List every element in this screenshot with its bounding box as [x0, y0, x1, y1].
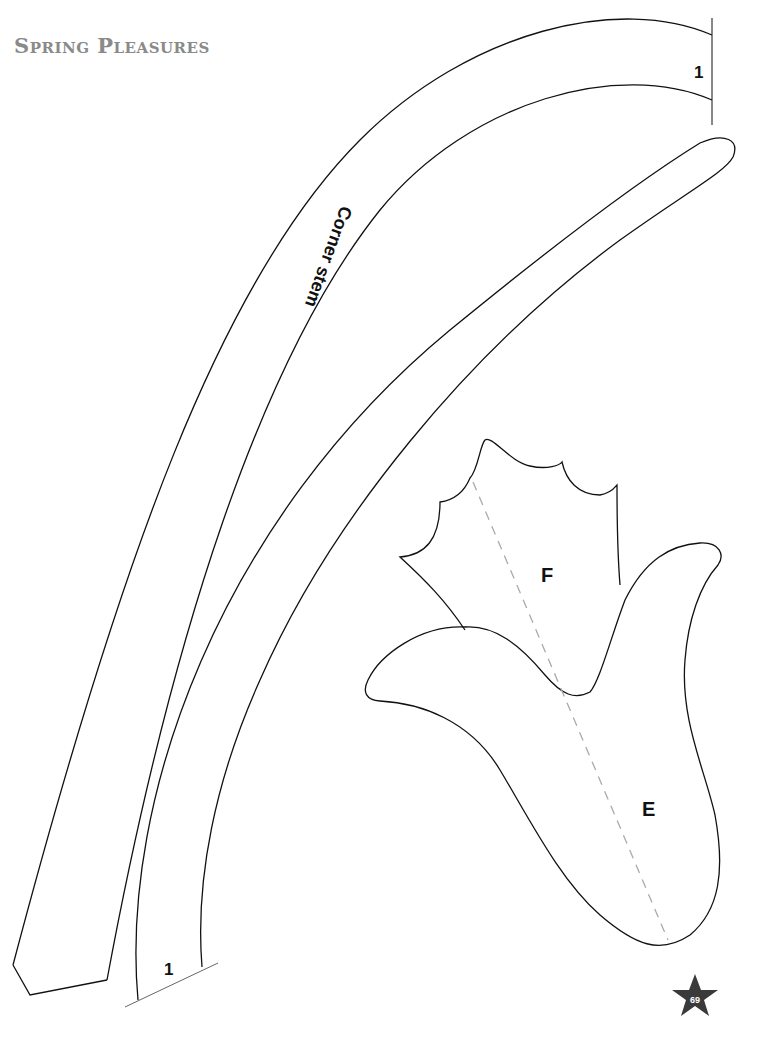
stem-label: Corner stem	[301, 204, 356, 310]
pattern-artwork: Corner stem 1 1 F E 69	[0, 0, 761, 1041]
corner-stem-piece	[13, 18, 712, 995]
pattern-page: Spring Pleasures Corner stem 1 1 F	[0, 0, 761, 1041]
top-seam-mark: 1	[694, 63, 703, 82]
bottom-seam-mark: 1	[164, 960, 173, 979]
page-number-star: 69	[672, 974, 718, 1016]
piece-e-label: E	[642, 798, 655, 820]
page-number: 69	[690, 995, 700, 1005]
piece-f-label: F	[541, 564, 553, 586]
flower-piece-e	[365, 543, 721, 945]
fold-line	[473, 482, 668, 940]
